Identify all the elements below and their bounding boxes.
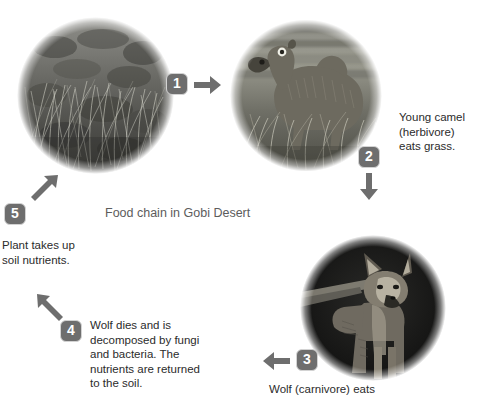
arrow-up-left-icon xyxy=(36,293,66,323)
photo-grass xyxy=(17,17,174,174)
arrow-down-icon xyxy=(359,173,379,201)
caption-step-4: Wolf dies and is decomposed by fungi and… xyxy=(90,318,220,391)
step-badge-1: 1 xyxy=(166,73,188,95)
caption-step-5: Plant takes up soil nutrients. xyxy=(2,238,132,267)
arrow-right-icon xyxy=(194,75,222,95)
step-badge-3: 3 xyxy=(296,349,318,371)
step-badge-5: 5 xyxy=(4,203,26,225)
photo-wolf xyxy=(300,235,446,381)
step-badge-2: 2 xyxy=(358,146,380,168)
caption-step-2: Young camel (herbivore) eats grass. xyxy=(399,110,477,154)
food-chain-diagram: 1 2 Young camel (herbivore) eats grass. … xyxy=(0,0,478,405)
arrow-up-right-icon xyxy=(29,174,59,204)
arrow-left-icon xyxy=(262,351,290,371)
diagram-title: Food chain in Gobi Desert xyxy=(105,206,250,220)
caption-step-3: Wolf (carnivore) eats xyxy=(269,382,469,397)
step-badge-4: 4 xyxy=(60,320,82,342)
